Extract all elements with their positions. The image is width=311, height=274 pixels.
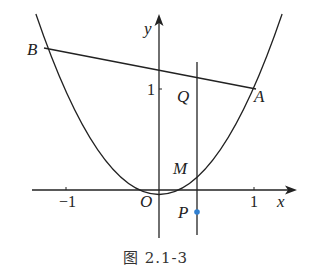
tick-label-x-neg1: −1 — [59, 193, 76, 210]
label-y-axis: y — [142, 19, 152, 38]
parabola-diagram: B A Q M P O x y −1 1 1 — [0, 0, 311, 274]
tick-label-x-pos1: 1 — [250, 193, 258, 210]
tick-label-y-pos1: 1 — [147, 81, 155, 98]
point-P-dot — [194, 209, 200, 215]
label-origin: O — [140, 192, 152, 211]
label-A: A — [253, 87, 265, 106]
label-M: M — [172, 159, 188, 178]
label-B: B — [27, 40, 38, 59]
figure-caption: 图 2.1-3 — [0, 246, 311, 267]
label-Q: Q — [177, 87, 189, 106]
label-P: P — [177, 203, 188, 222]
label-x-axis: x — [276, 192, 285, 211]
